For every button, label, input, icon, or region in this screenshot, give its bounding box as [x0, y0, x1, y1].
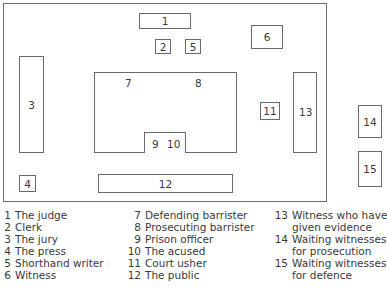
- label-3: 3: [28, 99, 35, 111]
- legend-item: 2Clerk: [4, 221, 104, 233]
- dock: 9 10: [144, 132, 186, 153]
- witnesses-given-evidence: 13: [293, 72, 317, 153]
- public-gallery: 12: [98, 174, 233, 193]
- legend-item: 9Prison officer: [127, 233, 255, 245]
- label-12: 12: [159, 178, 172, 190]
- waiting-witnesses-prosecution: 14: [358, 105, 382, 138]
- legend-item: 4The press: [4, 245, 104, 257]
- witness-box: 6: [251, 25, 283, 49]
- legend-item: 7Defending barrister: [127, 209, 255, 221]
- label-13: 13: [299, 107, 312, 118]
- label-8: 8: [195, 78, 202, 89]
- press-box: 4: [19, 175, 36, 192]
- legend-item: 12The public: [127, 269, 255, 281]
- jury-box: 3: [19, 56, 44, 153]
- legend-item: 5Shorthand writer: [4, 257, 104, 269]
- legend-item: 15Waiting witnesses: [274, 257, 387, 269]
- legend-item-cont: for defence: [274, 269, 387, 281]
- waiting-witnesses-defence: 15: [358, 151, 382, 187]
- legend-item-cont: for prosecution: [274, 245, 387, 257]
- label-1: 1: [162, 15, 169, 27]
- legend-item: 13Witness who have: [274, 209, 387, 221]
- legend-item: 8Prosecuting barrister: [127, 221, 255, 233]
- legend-item: 14Waiting witnesses: [274, 233, 387, 245]
- label-6: 6: [264, 31, 271, 43]
- judge-bench: 1: [139, 13, 191, 29]
- legend-item: 1The judge: [4, 209, 104, 221]
- label-9: 9: [152, 139, 159, 150]
- label-7: 7: [125, 78, 132, 89]
- label-2: 2: [160, 41, 167, 53]
- legend-item: 10The acused: [127, 245, 255, 257]
- clerk-desk: 2: [155, 39, 171, 54]
- court-usher: 11: [260, 102, 280, 120]
- legend-column-1: 1The judge 2Clerk 3The jury 4The press 5…: [4, 209, 104, 281]
- legend-item: 6Witness: [4, 269, 104, 281]
- label-15: 15: [363, 163, 376, 175]
- legend-column-2: 7Defending barrister 8Prosecuting barris…: [127, 209, 255, 281]
- label-11: 11: [263, 105, 276, 117]
- label-14: 14: [363, 116, 376, 128]
- shorthand-writer-desk: 5: [185, 39, 201, 54]
- label-10: 10: [167, 139, 180, 150]
- label-4: 4: [24, 178, 31, 190]
- label-5: 5: [190, 41, 197, 53]
- legend-item: 11Court usher: [127, 257, 255, 269]
- legend-item-cont: given evidence: [274, 221, 387, 233]
- legend-column-3: 13Witness who have given evidence 14Wait…: [274, 209, 387, 281]
- legend-item: 3The jury: [4, 233, 104, 245]
